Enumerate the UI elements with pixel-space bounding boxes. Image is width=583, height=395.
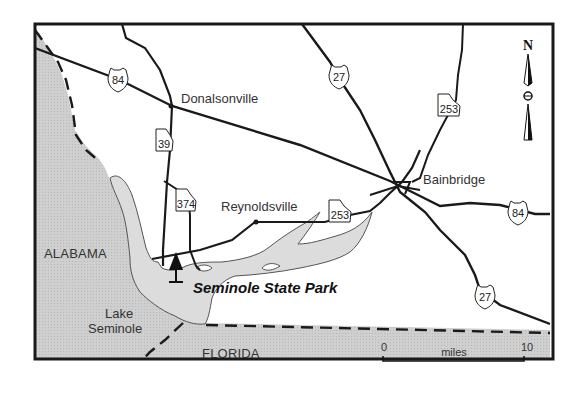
lake-seminole-label-line1: Lake [105, 306, 133, 321]
donalsonville-label: Donalsonville [181, 91, 258, 106]
scale-unit-label: miles [441, 346, 467, 358]
scale-start-label: 0 [381, 341, 387, 353]
us84-west-shield: 84 [108, 68, 128, 92]
seminole-state-park-map: 84 84 27 27 39 374 253 253 Donalsonville… [0, 0, 583, 395]
scale-end-label: 10 [521, 341, 533, 353]
us27-south-shield: 27 [475, 285, 495, 309]
ga374-label: 374 [177, 198, 195, 210]
park-label: Seminole State Park [193, 279, 338, 296]
reynoldsville-label: Reynoldsville [221, 199, 298, 214]
us27-south-label: 27 [479, 291, 491, 303]
map-frame [35, 24, 550, 180]
us84-east-shield: 84 [508, 201, 528, 225]
ga253-north-label: 253 [440, 103, 458, 115]
alabama-label: ALABAMA [44, 246, 107, 261]
us84-east-label: 84 [512, 207, 524, 219]
ga253-south-label: 253 [331, 209, 349, 221]
ga374-shield: 374 [176, 189, 196, 211]
ga39-label: 39 [158, 138, 170, 150]
us84-west-label: 84 [112, 74, 124, 86]
bainbridge-label: Bainbridge [423, 172, 485, 187]
lake-seminole-label-line2: Seminole [88, 321, 142, 336]
ga253-south-shield: 253 [329, 200, 351, 222]
us27-north-shield: 27 [329, 65, 349, 89]
reynoldsville-dot [254, 220, 259, 225]
north-label: N [523, 38, 533, 53]
north-arrow-icon: N [523, 38, 533, 140]
donalsonville-dot [169, 104, 174, 109]
us27-north-label: 27 [333, 71, 345, 83]
florida-label: FLORIDA [202, 346, 260, 361]
